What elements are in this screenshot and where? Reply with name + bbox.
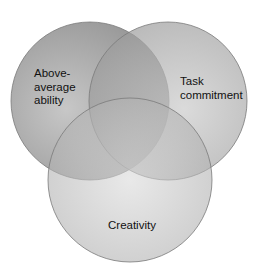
label-line: ability [34,94,76,108]
venn-diagram [0,0,258,279]
label-above-average-ability: Above- average ability [34,67,76,108]
label-task-commitment: Task commitment [180,75,243,102]
label-line: Above- [34,67,76,81]
label-creativity: Creativity [108,219,156,233]
label-line: average [34,81,76,95]
circle-creativity [48,98,212,262]
label-line: Creativity [108,219,156,233]
label-line: Task [180,75,243,89]
label-line: commitment [180,89,243,103]
